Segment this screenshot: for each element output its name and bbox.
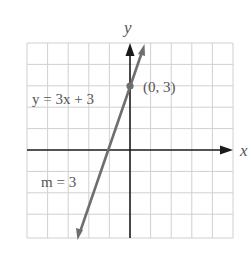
x-axis-label: x [239, 141, 248, 160]
graph-line [76, 44, 145, 240]
y-axis [126, 43, 135, 238]
x-axis-arrow-icon [220, 146, 233, 155]
slope-label: m = 3 [41, 174, 76, 190]
point-label: (0, 3) [143, 79, 176, 96]
line-arrow-up-icon [138, 44, 145, 56]
y-intercept-point [126, 82, 133, 89]
y-axis-arrow-icon [126, 43, 135, 56]
equation-label: y = 3x + 3 [32, 91, 94, 107]
y-axis-label: y [122, 18, 132, 37]
coordinate-plane: y x (0, 3) y = 3x + 3 m = 3 [0, 0, 252, 274]
